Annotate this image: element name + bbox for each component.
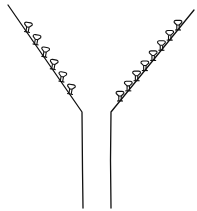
mushroom-protrusion-icon xyxy=(66,84,75,95)
left-wall-line xyxy=(8,5,83,208)
mushroom-protrusion-icon xyxy=(116,91,124,101)
y-channel-diagram xyxy=(0,0,197,211)
mushroom-protrusion-icon xyxy=(58,71,67,82)
mushroom-protrusion-icon xyxy=(174,20,182,30)
mushroom-protrusion-icon xyxy=(133,71,141,81)
right-protrusions xyxy=(116,20,182,101)
mushroom-protrusion-icon xyxy=(149,51,157,61)
mushroom-protrusion-icon xyxy=(23,22,32,33)
mushroom-protrusion-icon xyxy=(141,61,149,71)
mushroom-protrusion-icon xyxy=(40,47,49,58)
right-wall-line xyxy=(111,10,195,208)
mushroom-protrusion-icon xyxy=(49,59,58,70)
mushroom-protrusion-icon xyxy=(166,31,174,41)
mushroom-protrusion-icon xyxy=(158,41,166,51)
mushroom-protrusion-icon xyxy=(32,34,41,45)
left-protrusions xyxy=(23,22,75,95)
mushroom-protrusion-icon xyxy=(124,81,132,91)
